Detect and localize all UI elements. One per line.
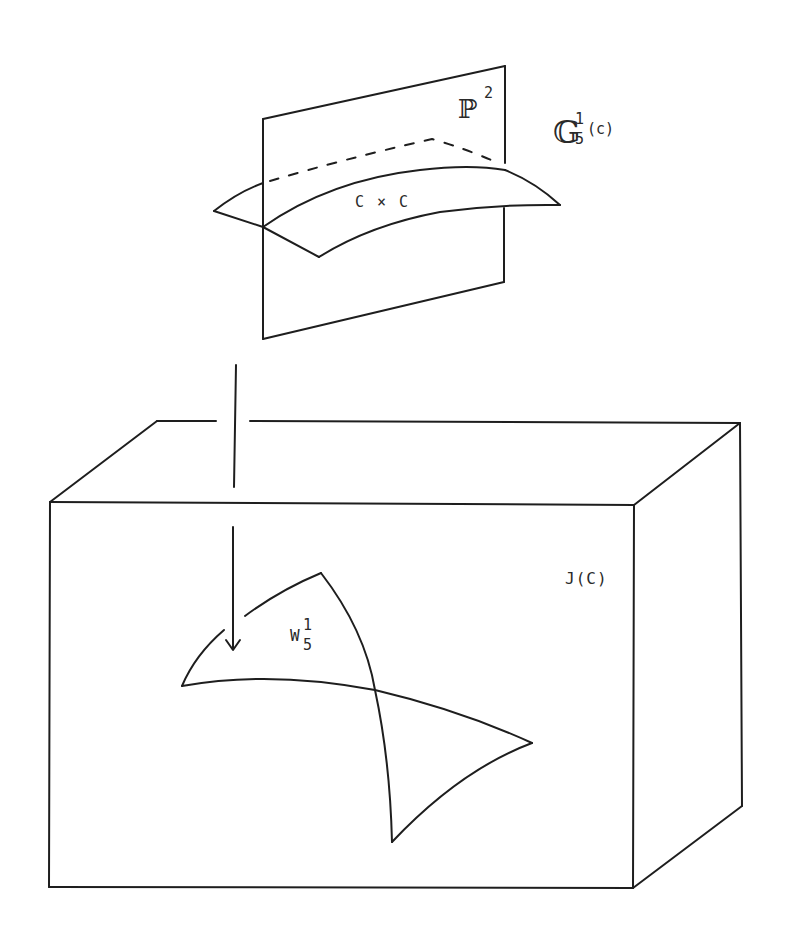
surface-front-lower-edge — [263, 227, 319, 257]
box-bottom-right-edge — [633, 806, 742, 888]
label-grassmannian-arg: (c) — [587, 122, 614, 137]
map-arrow — [226, 365, 240, 650]
label-projective-plane-base: ℙ — [458, 94, 478, 124]
surface-left-front-edge — [214, 211, 263, 227]
box-back-right-edge — [740, 423, 742, 806]
label-grassmannian: 𝔾 1 5 (c) — [553, 116, 633, 156]
label-brill-noether-sup: 1 — [303, 618, 312, 633]
plane-bottom-edge — [263, 282, 504, 339]
label-product-surface: C × C — [355, 195, 410, 210]
surface-right-upper-edge — [505, 170, 560, 205]
diagram-canvas — [0, 0, 786, 943]
w-upper-left-edge-upper — [245, 573, 321, 616]
label-grassmannian-sup: 1 — [575, 112, 584, 127]
label-projective-plane: ℙ 2 — [458, 96, 478, 122]
brill-noether-surface — [182, 573, 532, 842]
surface-left-back-edge — [214, 183, 263, 211]
arrow-shaft-upper — [234, 365, 236, 487]
label-brill-noether-sub: 5 — [303, 638, 312, 653]
label-projective-plane-sup: 2 — [484, 86, 493, 101]
box-top-right-edge — [634, 423, 740, 505]
w-horizontal-edge — [182, 679, 532, 743]
surface-bottom-edge — [319, 205, 560, 257]
box-front-left-edge — [49, 502, 50, 887]
label-brill-noether-base: W — [290, 628, 300, 644]
jacobian-box — [49, 421, 742, 888]
box-front-right-edge — [633, 505, 634, 888]
box-front-top-edge — [50, 502, 634, 505]
label-jacobian: J(C) — [565, 571, 608, 587]
label-brill-noether: W 1 5 — [290, 622, 330, 662]
label-grassmannian-sub: 5 — [575, 132, 584, 147]
box-back-top-edge-right — [250, 421, 740, 423]
w-upper-left-edge-lower — [182, 630, 224, 686]
w-lower-right-edge — [392, 743, 532, 842]
box-front-bottom-edge — [49, 887, 633, 888]
box-top-left-edge — [50, 421, 157, 502]
w-right-curved-edge — [321, 573, 392, 842]
